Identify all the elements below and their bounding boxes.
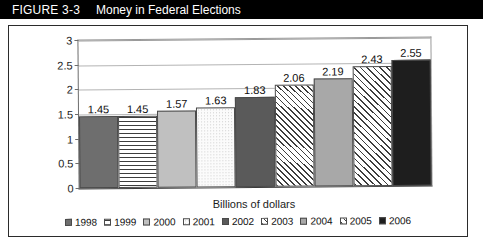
bar-1999[interactable]: 1.45 xyxy=(118,116,158,188)
bar-series-group: 1.451.451.571.631.832.062.192.432.55 xyxy=(78,38,431,189)
legend-swatch-icon xyxy=(340,217,347,224)
bar-slot: 1.83 xyxy=(235,39,275,187)
legend-item-2004[interactable]: 2004 xyxy=(300,216,332,227)
legend-item-2006[interactable]: 2006 xyxy=(379,215,411,226)
chart-frame: 32.521.510.50 1.451.451.571.631.832.062.… xyxy=(8,25,468,237)
plot-area: 32.521.510.50 1.451.451.571.631.832.062.… xyxy=(77,37,432,190)
legend-label: 2000 xyxy=(153,216,175,227)
legend-label: 2005 xyxy=(350,215,372,226)
y-axis-tick-label: 0.5 xyxy=(58,158,73,170)
figure-number: FIGURE 3-3 xyxy=(12,3,80,17)
bar-value-label: 2.19 xyxy=(322,65,344,77)
bar-value-label: 1.45 xyxy=(127,103,149,115)
bar-value-label: 1.45 xyxy=(88,104,110,116)
legend-swatch-icon xyxy=(65,219,72,226)
bar-slot: 1.63 xyxy=(196,39,236,187)
bar-2006[interactable]: 2.55 xyxy=(391,60,431,186)
y-axis-tick-label: 2.5 xyxy=(57,59,72,71)
bar-value-label: 1.83 xyxy=(244,84,266,96)
y-axis-tick-label: 1.5 xyxy=(58,108,73,120)
y-axis-tick-label: 3 xyxy=(66,34,72,46)
legend-item-2000[interactable]: 2000 xyxy=(143,216,175,227)
bar-1998[interactable]: 1.45 xyxy=(79,117,119,189)
legend-item-2005[interactable]: 2005 xyxy=(340,215,372,226)
bar-slot: 1.45 xyxy=(78,40,118,188)
legend-swatch-icon xyxy=(143,218,150,225)
legend-swatch-icon xyxy=(261,218,268,225)
bar-2004[interactable]: 2.19 xyxy=(313,78,353,186)
bar-value-label: 2.55 xyxy=(400,47,422,59)
y-axis-tick-label: 1 xyxy=(67,133,73,145)
bar-value-label: 1.63 xyxy=(205,94,227,106)
legend-item-2001[interactable]: 2001 xyxy=(183,216,215,227)
y-axis-tick-label: 2 xyxy=(67,84,73,96)
legend-label: 1999 xyxy=(114,217,136,228)
chart-legend: 199819992000200120022003200420052006 xyxy=(9,215,467,228)
legend-item-1999[interactable]: 1999 xyxy=(104,217,136,228)
legend-item-2002[interactable]: 2002 xyxy=(222,216,254,227)
legend-item-2003[interactable]: 2003 xyxy=(261,216,293,227)
legend-label: 2006 xyxy=(389,215,411,226)
bar-slot: 2.55 xyxy=(391,38,431,186)
legend-swatch-icon xyxy=(379,217,386,224)
legend-swatch-icon xyxy=(183,218,190,225)
legend-item-1998[interactable]: 1998 xyxy=(65,217,97,228)
bar-slot: 1.45 xyxy=(118,40,158,188)
bar-value-label: 2.06 xyxy=(283,72,305,84)
bar-slot: 2.19 xyxy=(313,38,353,186)
bar-slot: 2.43 xyxy=(352,38,392,186)
bar-2002[interactable]: 1.83 xyxy=(235,97,275,188)
bar-slot: 2.06 xyxy=(274,39,314,187)
figure-title: Money in Federal Elections xyxy=(96,3,241,17)
y-axis-tick-label: 0 xyxy=(67,182,73,194)
figure-header-bar: FIGURE 3-3 Money in Federal Elections xyxy=(0,0,483,19)
legend-label: 2004 xyxy=(310,216,332,227)
bar-2000[interactable]: 1.57 xyxy=(157,110,197,188)
bar-value-label: 1.57 xyxy=(166,97,188,109)
legend-swatch-icon xyxy=(300,218,307,225)
bar-2003[interactable]: 2.06 xyxy=(274,85,314,187)
legend-swatch-icon xyxy=(104,219,111,226)
legend-label: 1998 xyxy=(75,217,97,228)
legend-swatch-icon xyxy=(222,218,229,225)
x-axis-title: Billions of dollars xyxy=(78,198,430,210)
legend-label: 2001 xyxy=(193,216,215,227)
bar-2001[interactable]: 1.63 xyxy=(196,107,236,188)
legend-label: 2002 xyxy=(232,216,254,227)
bar-slot: 1.57 xyxy=(157,39,197,187)
legend-label: 2003 xyxy=(271,216,293,227)
bar-2005[interactable]: 2.43 xyxy=(352,66,392,186)
bar-value-label: 2.43 xyxy=(361,53,383,65)
